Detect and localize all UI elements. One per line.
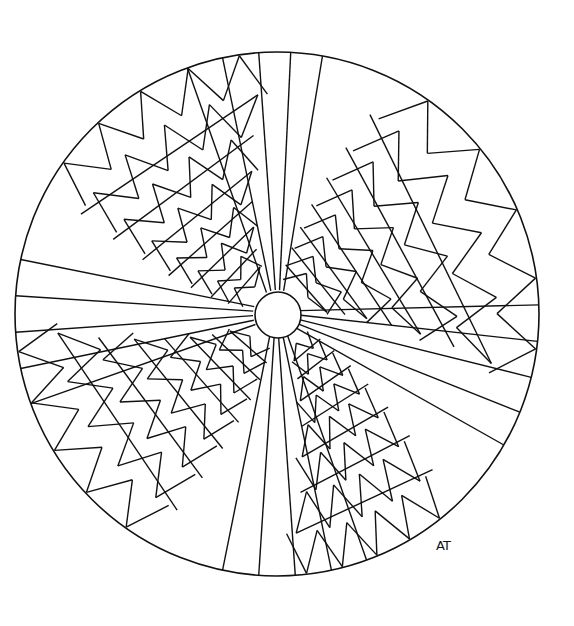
mandala-drawing (0, 0, 574, 626)
artist-signature: AT (436, 538, 450, 553)
center-circle (255, 292, 301, 338)
